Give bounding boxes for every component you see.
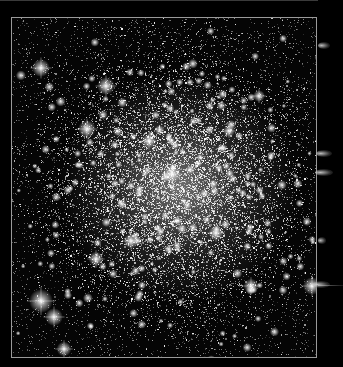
edge-glow (318, 237, 326, 244)
star-cluster-image (11, 17, 317, 358)
top-edge-line (0, 0, 318, 1)
edge-glow (318, 42, 330, 49)
edge-streak (318, 285, 343, 286)
edge-glow (316, 150, 332, 157)
star-field (12, 18, 317, 358)
edge-glow (315, 169, 333, 176)
